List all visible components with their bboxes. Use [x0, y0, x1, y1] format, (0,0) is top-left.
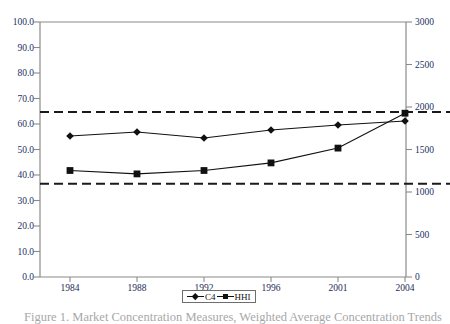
- left-tick-label: 70.0: [0, 94, 34, 104]
- x-tick-label-1988: 1988: [114, 283, 160, 293]
- left-tick-label: 0.0: [0, 272, 34, 282]
- legend-label-hhi: HHI: [235, 292, 251, 302]
- square-marker-icon: [217, 292, 234, 301]
- legend-item-c4[interactable]: C4: [187, 292, 216, 302]
- figure-caption: Figure 1. Market Concentration Measures,…: [24, 312, 442, 324]
- series-line-hhi: [70, 113, 405, 174]
- x-tick-label-1984: 1984: [47, 283, 93, 293]
- x-tick-label-2001: 2001: [315, 283, 361, 293]
- left-axis-ticks: [34, 22, 40, 277]
- left-tick-label: 80.0: [0, 68, 34, 78]
- right-tick-label: 3000: [415, 17, 449, 27]
- left-tick-label: 10.0: [0, 247, 34, 257]
- x-tick-label-2004: 2004: [382, 283, 428, 293]
- legend-label-c4: C4: [205, 292, 216, 302]
- series-line-c4: [70, 121, 405, 138]
- legend-item-hhi[interactable]: HHI: [217, 292, 251, 302]
- right-tick-label: 1500: [415, 145, 449, 155]
- right-tick-label: 1000: [415, 187, 449, 197]
- chart-container: 100.0 90.0 80.0 70.0 60.0 50.0 40.0 30.0…: [0, 0, 450, 324]
- left-tick-label: 20.0: [0, 221, 34, 231]
- x-axis-ticks: [70, 277, 405, 282]
- left-tick-label: 90.0: [0, 43, 34, 53]
- right-tick-label: 2000: [415, 102, 449, 112]
- right-tick-label: 2500: [415, 60, 449, 70]
- right-tick-label: 0: [415, 272, 449, 282]
- figure-caption-clip: Figure 1. Market Concentration Measures,…: [0, 312, 450, 324]
- left-tick-label: 60.0: [0, 119, 34, 129]
- left-tick-label: 50.0: [0, 145, 34, 155]
- left-tick-label: 30.0: [0, 196, 34, 206]
- right-tick-label: 500: [415, 230, 449, 240]
- chart-legend: C4 HHI: [182, 290, 256, 303]
- diamond-marker-icon: [187, 292, 204, 301]
- left-tick-label: 100.0: [0, 17, 34, 27]
- right-axis-ticks: [406, 22, 412, 277]
- left-tick-label: 40.0: [0, 170, 34, 180]
- chart-plot-area: [0, 0, 450, 324]
